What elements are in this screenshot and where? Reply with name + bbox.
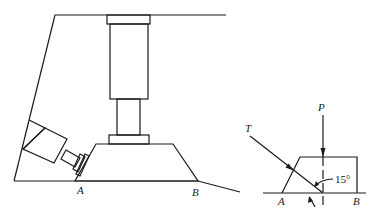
- free-body-diagram: P T 15° A B: [245, 101, 366, 207]
- cylinder-top-cap: [107, 15, 150, 24]
- label-force-t: T: [245, 122, 252, 134]
- press-diagram: A B: [14, 15, 240, 198]
- cylinder-body: [110, 24, 148, 99]
- ground-slope: [198, 181, 240, 192]
- mechanics-figure: A B P T 15° A B: [0, 0, 374, 218]
- jack-rod: [61, 150, 80, 167]
- force-p-arrowhead-icon: [321, 148, 326, 157]
- jack-mount: [23, 120, 45, 149]
- trapezoid-block: [75, 144, 198, 181]
- label-angle-15: 15°: [335, 173, 350, 185]
- label-point-a-left: A: [76, 184, 84, 196]
- label-force-p: P: [317, 101, 325, 113]
- figure-svg: A B P T 15° A B: [0, 0, 374, 218]
- jack-body: [23, 128, 67, 163]
- cylinder-base-plate: [109, 135, 149, 144]
- angle-pointer-arrowhead-icon: [314, 181, 319, 187]
- label-point-b-right: B: [353, 195, 360, 207]
- label-point-a-right: A: [277, 195, 285, 207]
- inclined-jack: [23, 120, 89, 176]
- frame-left-wall: [14, 15, 55, 181]
- cylinder-rod: [117, 99, 140, 135]
- label-point-b-left: B: [192, 186, 199, 198]
